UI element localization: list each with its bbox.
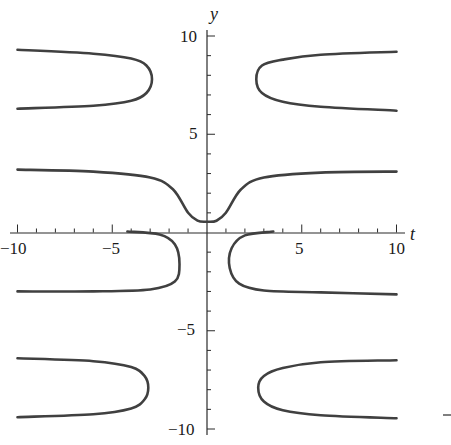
lower-left-branch-curve xyxy=(18,232,180,292)
y-tick-label-neg10: −10 xyxy=(168,420,195,439)
x-tick-label-neg10: −10 xyxy=(0,239,27,258)
bottom-right-branch-curve xyxy=(258,360,396,418)
x-tick-label-5: 5 xyxy=(295,239,304,258)
x-axis-label: t xyxy=(410,224,416,244)
lower-right-branch-curve xyxy=(229,232,396,295)
upper-left-branch-curve xyxy=(18,50,153,109)
x-tick-label-neg5: −5 xyxy=(102,239,120,258)
contour-plot: −10 −5 5 10 10 5 −5 −10 t y xyxy=(0,0,451,445)
y-tick-label-neg5: −5 xyxy=(177,320,195,339)
upper-right-branch-curve xyxy=(256,52,396,111)
y-tick-label-10: 10 xyxy=(180,27,197,46)
bottom-left-branch-curve xyxy=(18,358,149,417)
x-tick-label-10: 10 xyxy=(388,239,405,258)
y-tick-label-5: 5 xyxy=(189,124,198,143)
axes xyxy=(10,30,405,435)
y-axis-label: y xyxy=(208,4,218,24)
